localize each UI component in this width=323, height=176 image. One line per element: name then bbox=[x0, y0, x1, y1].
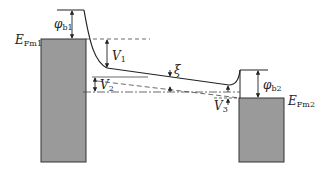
label-v2: V2 bbox=[100, 78, 114, 93]
barrier-2-curve bbox=[229, 70, 240, 85]
label-v3: V3 bbox=[214, 99, 228, 114]
label-efm1: EFm1 bbox=[14, 33, 42, 48]
label-xi: ξ bbox=[174, 63, 182, 77]
label-v1: V1 bbox=[112, 49, 126, 64]
label-phi-b1: φb1 bbox=[54, 17, 73, 32]
metal-2-block bbox=[239, 98, 284, 162]
label-phi-b2: φb2 bbox=[263, 78, 282, 93]
conduction-band-line bbox=[107, 68, 229, 85]
label-efm2: EFm2 bbox=[287, 94, 315, 109]
metal-1-block bbox=[41, 39, 86, 162]
band-diagram: φb1 EFm1 V1 V2 ξ V3 φb2 EFm2 bbox=[0, 0, 323, 176]
